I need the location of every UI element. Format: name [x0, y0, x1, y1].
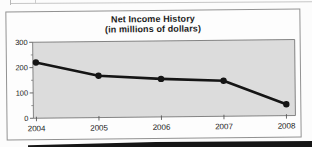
cropped-row-divider: [10, 1, 312, 4]
x-axis-tick-label: 2005: [90, 123, 108, 132]
x-axis-tick-label: 2008: [278, 122, 296, 131]
x-axis-tick-label: 2006: [153, 123, 171, 132]
cropped-row-cell-border: [10, 0, 11, 5]
scan-shadow-edge: [28, 141, 312, 147]
net-income-chart: 010020030020042005200620072008 Net Incom…: [5, 8, 301, 140]
x-axis-tick-label: 2007: [215, 122, 233, 131]
y-axis-tick-label: 100: [16, 89, 29, 98]
cropped-row-cell-border: [35, 0, 36, 4]
y-axis-tick-label: 0: [24, 114, 28, 123]
y-axis-tick-label: 300: [15, 38, 28, 47]
x-axis-tick-label: 2004: [28, 124, 46, 133]
scanned-page: 010020030020042005200620072008 Net Incom…: [0, 0, 312, 147]
y-axis-tick-label: 200: [15, 63, 28, 72]
chart-title: Net Income History (in millions of dolla…: [6, 12, 299, 35]
